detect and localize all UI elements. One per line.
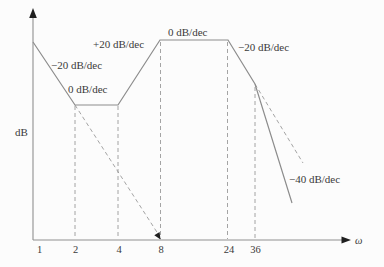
x-axis-label: ω (355, 235, 362, 246)
asymptote-arrowhead-icon (154, 232, 160, 240)
bode-plot-figure: −20 dB/dec 0 dB/dec +20 dB/dec 0 dB/dec … (0, 0, 384, 267)
y-axis-arrow-icon (29, 8, 37, 18)
tick-label-8: 8 (158, 244, 163, 255)
slope-label-seg6: −40 dB/dec (289, 173, 340, 185)
x-axis-arrow-icon (342, 236, 352, 243)
asymptote-extension-low (75, 105, 158, 233)
tick-label-2: 2 (73, 244, 78, 255)
asymptote-extension-high (255, 84, 303, 163)
slope-label-seg1: −20 dB/dec (51, 59, 102, 71)
slope-label-seg5: −20 dB/dec (238, 41, 289, 53)
tick-label-24: 24 (224, 244, 235, 255)
slope-label-seg3: +20 dB/dec (93, 38, 144, 50)
bode-plot-svg: −20 dB/dec 0 dB/dec +20 dB/dec 0 dB/dec … (0, 0, 384, 267)
slope-label-seg2: 0 dB/dec (68, 83, 108, 95)
slope-label-seg4: 0 dB/dec (168, 26, 208, 38)
tick-label-1: 1 (37, 244, 42, 255)
tick-label-36: 36 (250, 244, 261, 255)
tick-label-4: 4 (116, 244, 122, 255)
y-axis-label: dB (15, 126, 28, 138)
